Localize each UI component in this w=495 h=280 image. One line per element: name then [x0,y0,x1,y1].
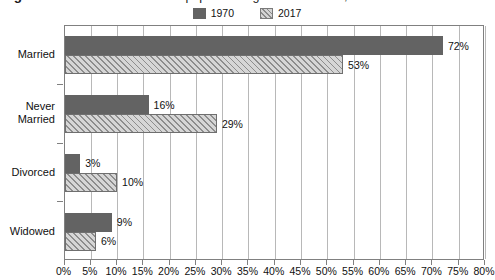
figure-caption: Marital status of U.S. population aged 1… [68,0,433,3]
y-axis-label-line: Married [0,113,55,126]
legend-label-1970: 1970 [211,7,234,19]
y-axis-tick [57,201,63,202]
solid-gray-swatch-icon [193,8,206,19]
x-axis-tick-label: 25% [184,265,205,277]
chart-legend: 1970 2017 [0,6,494,20]
bar-1970-married[interactable] [65,36,443,55]
y-axis-tick [57,84,63,85]
bar-value-label: 6% [101,235,116,247]
x-axis-tick-label: 20% [158,265,179,277]
x-axis-tick-label: 80% [473,265,494,277]
legend-item-1970: 1970 [193,7,234,19]
gridline [432,26,433,259]
bar-value-label: 9% [117,216,132,228]
y-axis-tick [57,143,63,144]
x-axis-tick-label: 70% [421,265,442,277]
bar-value-label: 10% [122,176,143,188]
y-axis-label-line: Divorced [0,165,55,178]
gridline [406,26,407,259]
bar-2017-never-married[interactable] [65,114,217,133]
bar-value-label: 29% [222,118,243,130]
bar-value-label: 3% [85,157,100,169]
legend-item-2017: 2017 [260,7,301,19]
figure-number: Figure 10. [2,0,65,3]
x-axis-tick-labels: 0%5%10%15%20%25%30%35%40%45%50%55%60%65%… [0,265,494,280]
y-axis-category-widowed: Widowed [0,224,55,237]
gridline [380,26,381,259]
bar-1970-widowed[interactable] [65,213,112,232]
x-axis-tick-label: 75% [447,265,468,277]
plot-area: 72%53%16%29%3%10%9%6% [64,25,485,260]
y-axis-label-line: Widowed [0,224,55,237]
x-axis-tick-label: 45% [290,265,311,277]
bar-value-label: 72% [448,40,469,52]
x-axis-tick-label: 0% [56,265,71,277]
bar-2017-divorced[interactable] [65,173,118,192]
y-axis-category-labels: MarriedNeverMarriedDivorcedWidowed [0,25,55,260]
bar-value-label: 16% [154,99,175,111]
page-title: Figure 10. Marital status of U.S. popula… [2,0,492,4]
bar-2017-widowed[interactable] [65,232,97,251]
gridline [485,26,486,259]
y-axis-ticks [57,25,64,260]
x-axis-tick-label: 65% [395,265,416,277]
bar-2017-married[interactable] [65,55,344,74]
bar-value-label: 53% [348,59,369,71]
x-axis-tick-label: 5% [82,265,97,277]
x-axis-tick-label: 10% [106,265,127,277]
x-axis-tick-label: 30% [211,265,232,277]
x-axis-tick-label: 15% [132,265,153,277]
hatched-gray-swatch-icon [260,8,273,19]
x-axis-tick-label: 35% [237,265,258,277]
x-axis-tick-label: 40% [263,265,284,277]
y-axis-category-divorced: Divorced [0,165,55,178]
legend-label-2017: 2017 [278,7,301,19]
x-axis-tick-label: 60% [368,265,389,277]
y-axis-label-line: Married [0,48,55,61]
x-axis-tick-label: 50% [316,265,337,277]
y-axis-label-line: Never [0,100,55,113]
y-axis-category-married: Married [0,48,55,61]
y-axis-category-never-married: NeverMarried [0,100,55,126]
x-axis-tick-label: 55% [342,265,363,277]
gridline [459,26,460,259]
bar-1970-divorced[interactable] [65,154,81,173]
bar-1970-never-married[interactable] [65,95,149,114]
